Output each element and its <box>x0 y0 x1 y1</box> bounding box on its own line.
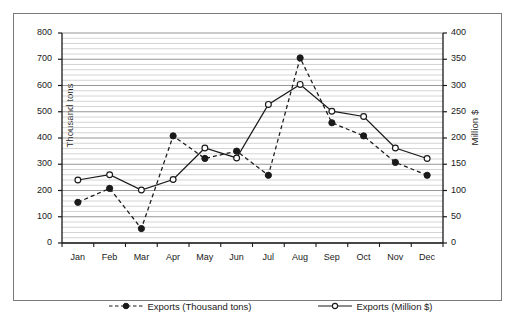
data-point-marker <box>392 145 398 151</box>
plot-canvas <box>0 0 514 314</box>
data-point-marker <box>138 225 144 231</box>
data-point-marker <box>297 55 303 61</box>
left-axis-tick-label: 100 <box>12 211 52 221</box>
left-axis-tick-label: 400 <box>12 132 52 142</box>
right-axis-tick-label: 350 <box>451 53 491 63</box>
right-axis-tick-label: 150 <box>451 158 491 168</box>
data-point-marker <box>107 172 113 178</box>
data-point-marker <box>424 156 430 162</box>
data-point-marker <box>170 133 176 139</box>
data-point-marker <box>75 177 81 183</box>
data-point-marker <box>265 102 271 108</box>
data-point-marker <box>361 114 367 120</box>
right-axis-tick-label: 50 <box>451 211 491 221</box>
data-point-marker <box>234 155 240 161</box>
data-point-marker <box>329 108 335 114</box>
right-axis-tick-label: 200 <box>451 132 491 142</box>
left-axis-tick-label: 0 <box>12 237 52 247</box>
left-axis-tick-label: 600 <box>12 80 52 90</box>
data-point-marker <box>202 155 208 161</box>
right-axis-tick-label: 300 <box>451 80 491 90</box>
data-point-marker <box>170 177 176 183</box>
data-point-marker <box>107 185 113 191</box>
left-axis-tick-label: 200 <box>12 185 52 195</box>
left-axis-tick-label: 800 <box>12 27 52 37</box>
right-axis-tick-label: 100 <box>451 185 491 195</box>
exports-chart-figure: Thousand tons Million $ Exports (Thousan… <box>0 0 514 314</box>
right-axis-tick-label: 0 <box>451 237 491 247</box>
data-point-marker <box>392 159 398 165</box>
left-axis-tick-label: 700 <box>12 53 52 63</box>
data-point-marker <box>361 133 367 139</box>
data-point-marker <box>202 145 208 151</box>
data-point-marker <box>424 172 430 178</box>
left-axis-tick-label: 500 <box>12 106 52 116</box>
data-point-marker <box>265 172 271 178</box>
data-point-marker <box>297 82 303 88</box>
series-line-2 <box>78 84 427 190</box>
right-axis-tick-label: 400 <box>451 27 491 37</box>
right-axis-tick-label: 250 <box>451 106 491 116</box>
left-axis-tick-label: 300 <box>12 158 52 168</box>
data-point-marker <box>138 187 144 193</box>
x-axis-category-label: Dec <box>407 252 447 262</box>
data-point-marker <box>75 199 81 205</box>
data-point-marker <box>329 120 335 126</box>
